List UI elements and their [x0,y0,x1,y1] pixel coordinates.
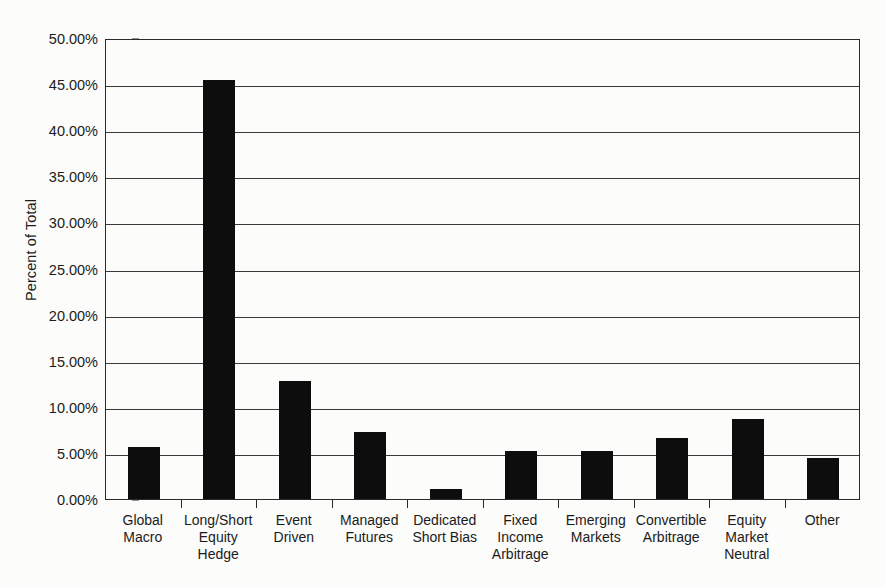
y-tick-label: 25.00% [36,262,98,277]
x-axis-category-label-line: Dedicated [407,512,483,529]
x-axis-category-label-line: Long/Short [181,512,257,529]
x-tick-mark [332,500,333,508]
bar [128,447,160,499]
x-axis-category-label-line: Global [105,512,181,529]
x-axis-category-label: EventDriven [256,512,332,546]
bar [807,458,839,499]
x-tick-mark [181,500,182,508]
x-axis-category-label-line: Fixed [483,512,559,529]
bar [279,381,311,499]
y-tick-label: 20.00% [36,308,98,323]
bar-chart-figure: Percent of Total 0.00%5.00%10.00%15.00%2… [0,0,885,587]
x-axis-category-label: Long/ShortEquityHedge [181,512,257,563]
y-tick-label: 35.00% [36,170,98,185]
y-axis-tick-labels: 0.00%5.00%10.00%15.00%20.00%25.00%30.00%… [34,0,98,587]
x-axis-category-label-line: Arbitrage [634,529,710,546]
x-tick-mark [558,500,559,508]
bar [203,80,235,500]
bar [430,489,462,499]
y-tick-label: 5.00% [36,447,98,462]
x-axis-category-label: GlobalMacro [105,512,181,546]
y-tick-label: 0.00% [36,493,98,508]
x-tick-mark [634,500,635,508]
x-axis-category-label-line: Macro [105,529,181,546]
x-axis-category-label: ConvertibleArbitrage [634,512,710,546]
y-tick-label: 45.00% [36,78,98,93]
x-axis-category-label-line: Managed [332,512,408,529]
x-axis-category-label-line: Driven [256,529,332,546]
x-axis-category-label: Other [785,512,861,529]
x-axis-category-label-line: Equity [181,529,257,546]
x-axis-category-label-line: Convertible [634,512,710,529]
x-tick-mark [483,500,484,508]
x-axis-category-label: EquityMarketNeutral [709,512,785,563]
y-tick-label: 40.00% [36,124,98,139]
x-axis-category-label-line: Neutral [709,546,785,563]
x-axis-category-label-line: Short Bias [407,529,483,546]
x-tick-mark [256,500,257,508]
x-tick-mark [407,500,408,508]
y-tick-label: 10.00% [36,401,98,416]
x-axis-category-label-line: Emerging [558,512,634,529]
x-axis-category-label-line: Markets [558,529,634,546]
y-tick-label: 15.00% [36,354,98,369]
x-axis-category-label-line: Hedge [181,546,257,563]
x-axis-category-label-line: Event [256,512,332,529]
x-axis-category-label-line: Equity [709,512,785,529]
x-axis-category-label: ManagedFutures [332,512,408,546]
x-axis-category-label-line: Other [785,512,861,529]
x-axis-category-label: DedicatedShort Bias [407,512,483,546]
bar [505,451,537,499]
x-axis-category-label-line: Income [483,529,559,546]
bar [354,432,386,499]
bar [581,451,613,499]
bar-series [106,40,859,499]
bar [732,419,764,499]
x-axis-category-label: FixedIncomeArbitrage [483,512,559,563]
bar [656,438,688,499]
x-axis-category-label-line: Arbitrage [483,546,559,563]
x-axis-category-label: EmergingMarkets [558,512,634,546]
x-axis-category-label-line: Futures [332,529,408,546]
x-tick-mark [785,500,786,508]
y-tick-label: 30.00% [36,216,98,231]
x-tick-mark [709,500,710,508]
y-tick-label: 50.00% [36,32,98,47]
plot-area [105,39,860,500]
x-axis-category-label-line: Market [709,529,785,546]
